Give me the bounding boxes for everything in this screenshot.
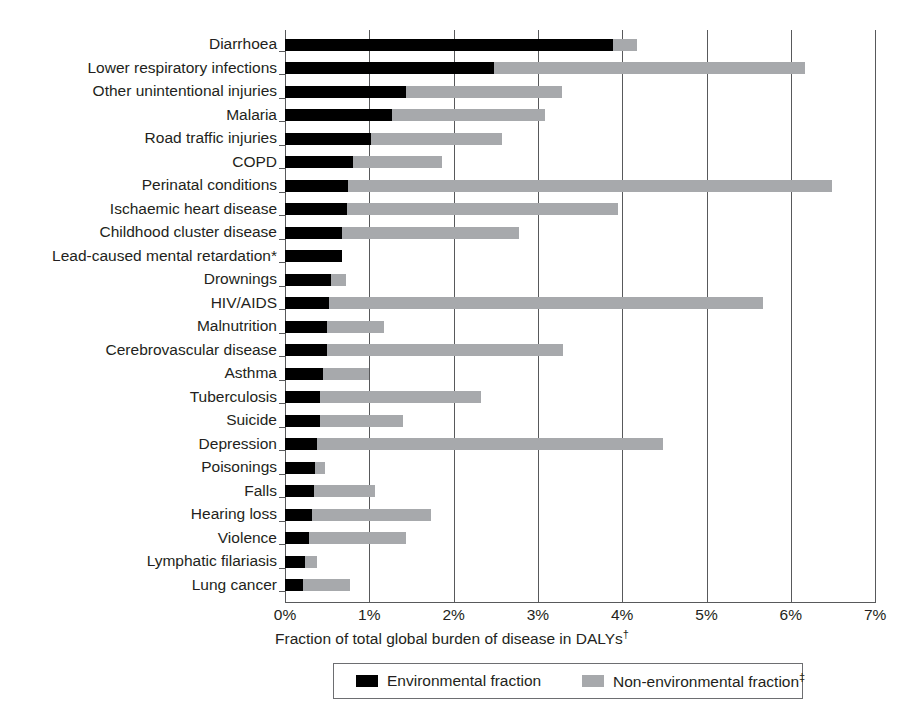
stacked-bar xyxy=(285,321,384,333)
x-axis-tick-label: 6% xyxy=(756,606,826,624)
bar-segment-environmental xyxy=(285,227,342,239)
x-axis-tick-label: 0% xyxy=(250,606,320,624)
bar-row xyxy=(285,503,875,527)
bar-segment-non-environmental xyxy=(329,297,763,309)
bar-row xyxy=(285,480,875,504)
bar-row xyxy=(285,80,875,104)
bar-segment-non-environmental xyxy=(315,462,326,474)
bar-segment-non-environmental xyxy=(406,86,561,98)
bar-segment-environmental xyxy=(285,415,320,427)
bar-segment-non-environmental xyxy=(613,39,637,51)
bar-segment-non-environmental xyxy=(303,579,350,591)
chart-figure: DiarrhoeaLower respiratory infectionsOth… xyxy=(0,0,904,727)
bar-segment-non-environmental xyxy=(314,485,376,497)
bar-segment-environmental xyxy=(285,203,347,215)
x-axis-tick-label: 7% xyxy=(840,606,904,624)
y-axis-label: Drownings xyxy=(0,271,277,287)
stacked-bar xyxy=(285,368,369,380)
stacked-bar xyxy=(285,485,375,497)
bar-segment-non-environmental xyxy=(327,344,563,356)
stacked-bar xyxy=(285,438,663,450)
stacked-bar xyxy=(285,180,832,192)
y-axis-label: Falls xyxy=(0,483,277,499)
bar-segment-environmental xyxy=(285,344,327,356)
y-axis-label: Perinatal conditions xyxy=(0,177,277,193)
bar-segment-non-environmental xyxy=(348,180,832,192)
stacked-bar xyxy=(285,532,406,544)
y-axis-label: Malnutrition xyxy=(0,318,277,334)
bar-segment-environmental xyxy=(285,579,303,591)
bar-segment-non-environmental xyxy=(317,438,663,450)
bar-segment-environmental xyxy=(285,62,494,74)
bar-row xyxy=(285,386,875,410)
y-axis-label: Cerebrovascular disease xyxy=(0,342,277,358)
bar-row xyxy=(285,339,875,363)
legend-swatch-non-environmental xyxy=(582,675,604,687)
bar-segment-environmental xyxy=(285,321,327,333)
bar-segment-environmental xyxy=(285,274,331,286)
y-axis-label: COPD xyxy=(0,154,277,170)
bar-row xyxy=(285,456,875,480)
bar-segment-non-environmental xyxy=(494,62,805,74)
stacked-bar xyxy=(285,156,442,168)
y-axis-label: Lead-caused mental retardation* xyxy=(0,248,277,264)
bar-segment-non-environmental xyxy=(342,227,519,239)
bar-row xyxy=(285,57,875,81)
stacked-bar xyxy=(285,62,805,74)
bar-row xyxy=(285,221,875,245)
stacked-bar xyxy=(285,415,403,427)
stacked-bar xyxy=(285,203,618,215)
stacked-bar xyxy=(285,462,325,474)
bar-row xyxy=(285,268,875,292)
x-axis-tick-label: 2% xyxy=(419,606,489,624)
y-axis-label: Violence xyxy=(0,530,277,546)
x-axis-tick-label: 3% xyxy=(503,606,573,624)
stacked-bar xyxy=(285,344,563,356)
bar-segment-environmental xyxy=(285,391,320,403)
x-axis-tick-label: 4% xyxy=(587,606,657,624)
stacked-bar xyxy=(285,274,346,286)
bar-row xyxy=(285,174,875,198)
bar-row xyxy=(285,550,875,574)
bar-segment-non-environmental xyxy=(371,133,503,145)
bar-row xyxy=(285,245,875,269)
bar-segment-environmental xyxy=(285,556,305,568)
y-axis-label: Tuberculosis xyxy=(0,389,277,405)
y-axis-label: Hearing loss xyxy=(0,506,277,522)
bar-segment-environmental xyxy=(285,180,348,192)
bar-segment-non-environmental xyxy=(347,203,618,215)
legend-item-non: Non-environmental fraction‡ xyxy=(582,664,805,698)
stacked-bar xyxy=(285,509,431,521)
x-axis-title: Fraction of total global burden of disea… xyxy=(0,628,904,648)
bar-segment-environmental xyxy=(285,368,323,380)
bar-row xyxy=(285,409,875,433)
legend-label: Non-environmental fraction‡ xyxy=(613,671,805,691)
x-axis-tick-label: 5% xyxy=(672,606,742,624)
stacked-bar xyxy=(285,391,481,403)
stacked-bar xyxy=(285,109,545,121)
y-axis-label: Ischaemic heart disease xyxy=(0,201,277,217)
bar-segment-environmental xyxy=(285,39,613,51)
y-axis-category-labels: DiarrhoeaLower respiratory infectionsOth… xyxy=(0,30,277,602)
bar-rows xyxy=(285,30,875,602)
bar-segment-environmental xyxy=(285,297,329,309)
legend-item-env: Environmental fraction xyxy=(356,664,541,698)
bar-row xyxy=(285,527,875,551)
y-axis-label: Depression xyxy=(0,436,277,452)
bar-segment-environmental xyxy=(285,109,392,121)
bar-row xyxy=(285,33,875,57)
y-axis-label: Malaria xyxy=(0,107,277,123)
y-axis-label: HIV/AIDS xyxy=(0,295,277,311)
x-axis-line xyxy=(285,602,876,603)
y-axis-label: Poisonings xyxy=(0,459,277,475)
bar-segment-non-environmental xyxy=(392,109,545,121)
gridline-7 xyxy=(875,30,876,602)
stacked-bar xyxy=(285,579,350,591)
y-axis-label: Asthma xyxy=(0,365,277,381)
bar-segment-non-environmental xyxy=(309,532,405,544)
x-axis-tick-label: 1% xyxy=(334,606,404,624)
bar-segment-non-environmental xyxy=(353,156,442,168)
stacked-bar xyxy=(285,133,502,145)
y-axis-label: Lung cancer xyxy=(0,577,277,593)
bar-row xyxy=(285,198,875,222)
